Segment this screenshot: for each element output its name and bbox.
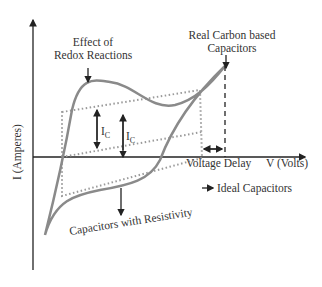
ic-right-label: IC xyxy=(126,130,135,145)
ideal-capacitors-label: Ideal Capacitors xyxy=(217,182,293,195)
y-axis-label: I (Amperes) xyxy=(11,124,24,180)
resistivity-label: Capacitors with Resistivity xyxy=(68,206,193,238)
real-carbon-label-line1: Real Carbon based xyxy=(189,29,276,41)
redox-label-line2: Redox Reactions xyxy=(54,49,133,61)
real-carbon-curve xyxy=(45,66,225,235)
cv-diagram: Effect of Redox Reactions Real Carbon ba… xyxy=(0,0,322,287)
x-axis-label: V (Volts) xyxy=(266,157,308,170)
voltage-delay-label: Voltage Delay xyxy=(186,157,252,170)
redox-label-line1: Effect of xyxy=(73,36,114,48)
ic-left-label: IC xyxy=(101,125,110,140)
real-carbon-label-line2: Capacitors xyxy=(207,42,257,55)
